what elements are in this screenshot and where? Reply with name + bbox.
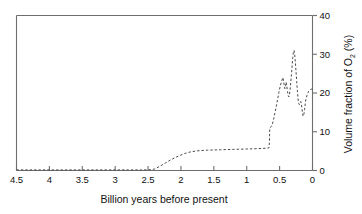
x-tick-label: 2.5 — [141, 174, 154, 185]
y-tick-marks — [313, 16, 318, 171]
x-tick-label: 3.5 — [76, 174, 89, 185]
y-tick-labels: 010203040 — [320, 10, 331, 176]
y-axis-title: Volume fraction of O2 (%) — [342, 35, 356, 153]
x-axis-title: Billion years before present — [100, 193, 227, 205]
x-tick-label: 2 — [178, 174, 183, 185]
oxygen-curve — [17, 50, 313, 170]
x-tick-label: 3 — [113, 174, 118, 185]
y-tick-label: 30 — [320, 49, 331, 60]
data-series-group — [17, 50, 313, 170]
x-tick-label: 4 — [47, 174, 52, 185]
x-tick-label: 0.5 — [273, 174, 286, 185]
figure-container: 4.543.532.521.510.50 010203040 Billion y… — [0, 0, 362, 214]
x-tick-label: 1 — [244, 174, 249, 185]
y-tick-label: 0 — [320, 165, 325, 176]
x-tick-label: 0 — [310, 174, 315, 185]
oxygen-history-chart: 4.543.532.521.510.50 010203040 Billion y… — [0, 0, 362, 214]
x-tick-label: 1.5 — [207, 174, 220, 185]
y-tick-label: 20 — [320, 87, 331, 98]
y-tick-label: 40 — [320, 10, 331, 21]
y-axis-title-tail: (%) — [342, 35, 354, 54]
y-tick-label: 10 — [320, 126, 331, 137]
x-tick-label: 4.5 — [10, 174, 23, 185]
x-tick-labels: 4.543.532.521.510.50 — [10, 174, 315, 185]
plot-frame — [17, 16, 313, 171]
y-axis-title-main: Volume fraction of O — [342, 58, 354, 153]
